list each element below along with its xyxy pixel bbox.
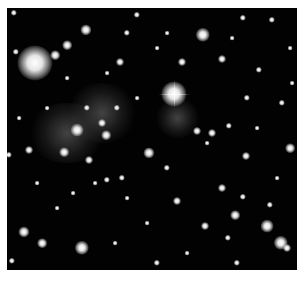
star: [134, 12, 140, 18]
star: [218, 184, 226, 192]
star: [193, 127, 201, 135]
star: [173, 197, 181, 205]
star: [75, 241, 89, 255]
star: [7, 152, 12, 158]
star: [11, 10, 17, 16]
star: [269, 17, 275, 23]
star: [35, 181, 40, 186]
star: [218, 55, 226, 63]
star: [234, 260, 240, 266]
star: [155, 46, 160, 51]
star: [240, 194, 246, 200]
star: [230, 210, 240, 220]
star: [261, 220, 274, 233]
star: [205, 141, 210, 146]
star: [290, 81, 295, 86]
star: [124, 30, 130, 36]
star: [201, 222, 209, 230]
star: [135, 96, 140, 101]
star: [113, 241, 118, 246]
star: [80, 24, 91, 35]
star: [230, 36, 235, 41]
star: [285, 143, 295, 153]
star: [145, 221, 150, 226]
star: [119, 175, 125, 181]
star: [255, 126, 260, 131]
star: [17, 45, 52, 80]
star: [256, 67, 262, 73]
star: [55, 206, 60, 211]
star: [240, 15, 246, 21]
star: [71, 124, 84, 137]
star: [104, 177, 110, 183]
star: [93, 181, 98, 186]
star: [59, 147, 69, 157]
star: [288, 46, 293, 51]
star: [25, 146, 33, 154]
star: [196, 28, 210, 42]
star: [279, 100, 285, 106]
star: [225, 235, 231, 241]
star: [244, 95, 250, 101]
star: [18, 226, 29, 237]
star: [71, 191, 76, 196]
star: [116, 58, 124, 66]
star: [185, 251, 190, 256]
star: [62, 40, 72, 50]
star: [283, 244, 291, 252]
star: [242, 152, 250, 160]
astronomical-image: [7, 8, 297, 270]
star: [85, 156, 93, 164]
star: [178, 58, 186, 66]
star: [125, 196, 130, 201]
star: [154, 260, 160, 266]
star: [101, 130, 111, 140]
star: [17, 116, 22, 121]
star: [98, 119, 106, 127]
star: [50, 50, 60, 60]
star: [37, 238, 47, 248]
diffraction-spike: [174, 80, 175, 108]
star: [208, 129, 216, 137]
star: [45, 106, 50, 111]
star: [65, 76, 70, 81]
star: [275, 176, 280, 181]
star: [164, 165, 170, 171]
star: [226, 123, 232, 129]
star: [9, 258, 15, 264]
star: [143, 147, 154, 158]
star: [267, 202, 273, 208]
star: [105, 71, 110, 76]
star: [165, 31, 170, 36]
